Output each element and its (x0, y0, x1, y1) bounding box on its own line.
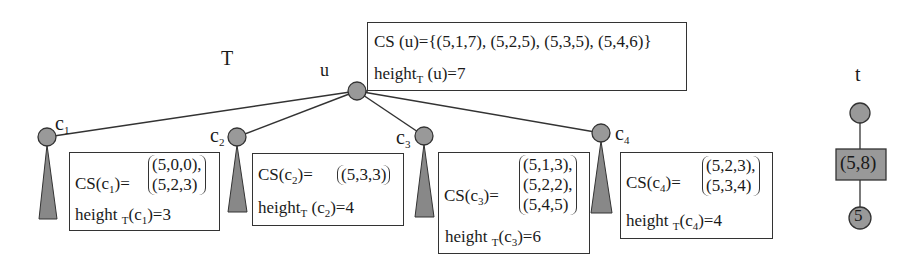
info-box-c4: CS(c4)= (5,2,3), (5,3,4) height T(c4)=4 (620, 152, 773, 239)
node-c2 (228, 128, 246, 146)
edge-u-c3 (357, 91, 424, 136)
height-c4: height T(c4)=4 (626, 211, 722, 231)
cs-c4-set: (5,2,3), (5,3,4) (702, 156, 760, 196)
node-c3-label: c3 (396, 126, 410, 149)
cs-u: CS (u)={(5,1,7), (5,2,5), (5,3,5), (5,4,… (374, 32, 652, 52)
cs-c3-prefix: CS(c (444, 186, 478, 205)
cs-c2-suffix: )= (298, 165, 313, 184)
node-c3 (415, 127, 433, 145)
node-t-leaf-label: 5 (854, 206, 863, 226)
height-c4-suffix: )=4 (698, 211, 722, 230)
tuple: (5,2,3), (706, 156, 756, 176)
subtree-c1 (39, 145, 57, 219)
node-c4 (592, 124, 610, 142)
height-u-suffix: (u)=7 (423, 64, 465, 83)
tuple: (5,3,4) (706, 176, 756, 196)
node-c1-label: c1 (55, 112, 69, 135)
subtree-c4 (591, 141, 612, 213)
tuple: (5,0,0), (152, 155, 202, 175)
c2-label-sub: 2 (219, 136, 225, 148)
edge-u-c1 (47, 91, 357, 137)
cs-c3-label: CS(c3)= (444, 186, 499, 206)
height-c1: height T(c1)=3 (75, 205, 171, 225)
height-c1-prefix: height (75, 205, 122, 224)
cs-c1-set: (5,0,0), (5,2,3) (148, 155, 206, 195)
info-box-c3: CS(c3)= (5,1,3), (5,2,2), (5,4,5) height… (438, 152, 590, 254)
height-c2-prefix: height (258, 198, 301, 217)
c3-label-text: c (396, 126, 405, 148)
subtree-c2 (228, 145, 247, 212)
cs-c4-label: CS(c4)= (626, 173, 681, 193)
tuple: (5,2,2), (523, 175, 573, 195)
c2-label-text: c (210, 124, 219, 146)
height-c2-suffix: )=4 (330, 198, 354, 217)
height-c3-prefix: height (445, 227, 492, 246)
cs-u-prefix: CS (u)= (374, 32, 428, 51)
node-c1 (38, 128, 56, 146)
height-c2-arg: (c (307, 198, 324, 217)
node-c4-label: c4 (615, 122, 629, 145)
cs-c1-tuples: (5,0,0), (5,2,3) (148, 155, 206, 195)
info-box-c1: CS(c1)= (5,0,0), (5,2,3) height T(c1)=3 (69, 152, 220, 231)
edge-u-c2 (237, 91, 357, 137)
tuple: (5,2,3) (152, 175, 202, 195)
cs-c1-prefix: CS(c (75, 174, 109, 193)
cs-c3-tuples: (5,1,3), (5,2,2), (5,4,5) (519, 155, 577, 215)
cs-c4-tuples: (5,2,3), (5,3,4) (702, 156, 760, 196)
height-c1-arg: (c (128, 205, 141, 224)
height-c1-suffix: )=3 (147, 205, 171, 224)
height-c3-suffix: )=6 (517, 227, 541, 246)
subtree-c3 (415, 144, 434, 217)
c4-label-sub: 4 (624, 134, 630, 146)
tree-t-label: t (855, 63, 861, 86)
cs-c2-set: (5,3,3) (337, 165, 390, 185)
cs-c2-tuples: (5,3,3) (337, 165, 390, 185)
c1-label-sub: 1 (64, 124, 70, 136)
cs-c1-label: CS(c1)= (75, 174, 130, 194)
edge-u-c4 (357, 91, 601, 133)
c4-label-text: c (615, 122, 624, 144)
tuple: (5,1,3), (523, 155, 573, 175)
cs-c2-prefix: CS(c (258, 165, 292, 184)
cs-c4-prefix: CS(c (626, 173, 660, 192)
height-c2: heightT (c2)=4 (258, 198, 354, 218)
height-u-prefix: height (374, 64, 417, 83)
height-c4-prefix: height (626, 211, 673, 230)
c3-label-sub: 3 (405, 138, 411, 150)
cs-c3-suffix: )= (484, 186, 499, 205)
node-t-root (850, 103, 870, 123)
edge-box-t-label: (5,8) (840, 152, 876, 174)
cs-u-set: {(5,1,7), (5,2,5), (5,3,5), (5,4,6)} (428, 32, 651, 51)
node-c2-label: c2 (210, 124, 224, 147)
tuple: (5,4,5) (523, 195, 573, 215)
height-c3-arg: (c (498, 227, 511, 246)
height-c3: height T(c3)=6 (445, 227, 541, 247)
height-c4-arg: (c (679, 211, 692, 230)
tuple: (5,3,3) (341, 165, 386, 185)
c1-label-text: c (55, 112, 64, 134)
node-u-label: u (320, 60, 329, 81)
node-u (348, 82, 366, 100)
info-box-u: CS (u)={(5,1,7), (5,2,5), (5,3,5), (5,4,… (367, 22, 687, 91)
cs-c4-suffix: )= (666, 173, 681, 192)
tree-T-label: T (221, 47, 233, 70)
cs-c3-set: (5,1,3), (5,2,2), (5,4,5) (519, 155, 577, 215)
cs-c1-suffix: )= (115, 174, 130, 193)
height-u: heightT (u)=7 (374, 64, 465, 84)
info-box-c2: CS(c2)= (5,3,3) heightT (c2)=4 (252, 153, 404, 226)
cs-c2-label: CS(c2)= (258, 165, 313, 185)
